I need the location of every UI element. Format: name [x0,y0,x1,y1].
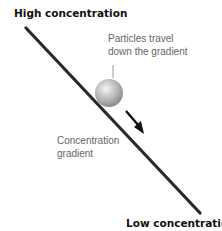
gradient-label-line2: gradient [57,148,93,160]
direction-arrow-icon [126,111,144,134]
particles-label-line1: Particles travel [108,33,174,45]
low-concentration-label: Low concentration [126,217,222,230]
high-concentration-label: High concentration [14,7,127,20]
particle-ball [95,79,123,107]
particles-label-line2: down the gradient [108,46,188,58]
gradient-label-line1: Concentration [57,135,119,147]
